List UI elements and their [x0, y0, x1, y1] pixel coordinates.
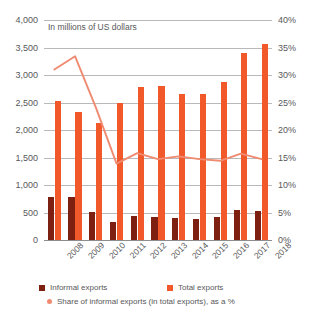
x-axis-tick-2013: 2013	[170, 241, 190, 261]
y-axis-left-tick: 1,500	[15, 154, 38, 163]
legend-swatch-icon-total	[167, 285, 173, 291]
legend-label-informal: Informal exports	[50, 283, 107, 292]
share-line-layer	[44, 20, 272, 240]
x-axis-tick-2010: 2010	[107, 241, 127, 261]
y-axis-right-tick: 40%	[278, 16, 296, 25]
y-axis-right-tick: 35%	[278, 44, 296, 53]
y-axis-left-tick: 3,000	[15, 71, 38, 80]
legend-item-share: Share of informal exports (in total expo…	[46, 297, 235, 306]
legend-label-total: Total exports	[178, 283, 223, 292]
y-axis-left-tick: 500	[23, 209, 38, 218]
y-axis-left-tick: 2,000	[15, 126, 38, 135]
y-axis-right-tick: 15%	[278, 154, 296, 163]
legend-item-informal-exports: Informal exports	[39, 283, 107, 292]
share-line	[44, 20, 272, 240]
legend-dot-icon-share	[47, 299, 52, 304]
y-axis-right-tick: 20%	[278, 126, 296, 135]
chart-legend: Informal exports Total exports Share of …	[0, 283, 312, 311]
x-axis-labels: 2008200920102011201220132014201520162017…	[44, 241, 272, 271]
y-axis-right-tick: 5%	[278, 209, 291, 218]
legend-row-1: Informal exports Total exports	[0, 283, 312, 297]
x-axis-tick-2018: 2018	[273, 241, 293, 261]
x-axis-tick-2009: 2009	[87, 241, 107, 261]
y-axis-left-tick: 4,000	[15, 16, 38, 25]
legend-swatch-icon-informal	[39, 285, 45, 291]
x-axis-tick-2008: 2008	[66, 241, 86, 261]
share-line-path	[54, 56, 261, 163]
legend-label-share: Share of informal exports (in total expo…	[57, 297, 235, 306]
x-axis-tick-2016: 2016	[232, 241, 252, 261]
y-axis-right-tick: 25%	[278, 99, 296, 108]
x-axis-tick-2017: 2017	[252, 241, 272, 261]
legend-row-2: Share of informal exports (in total expo…	[0, 297, 312, 311]
plot-area	[44, 20, 272, 240]
y-axis-right-tick: 30%	[278, 71, 296, 80]
x-axis-tick-2014: 2014	[190, 241, 210, 261]
x-axis-tick-2015: 2015	[211, 241, 231, 261]
y-axis-left-tick: 1,000	[15, 181, 38, 190]
y-axis-left-tick: 2,500	[15, 99, 38, 108]
x-axis-tick-2012: 2012	[149, 241, 169, 261]
legend-item-total-exports: Total exports	[167, 283, 223, 292]
y-axis-right-tick: 10%	[278, 181, 296, 190]
y-axis-left-tick: 3,500	[15, 44, 38, 53]
chart-figure: In millions of US dollars 4,0003,5003,00…	[0, 0, 312, 326]
y-axis-left-tick: 0	[33, 236, 38, 245]
x-axis-tick-2011: 2011	[128, 241, 147, 260]
